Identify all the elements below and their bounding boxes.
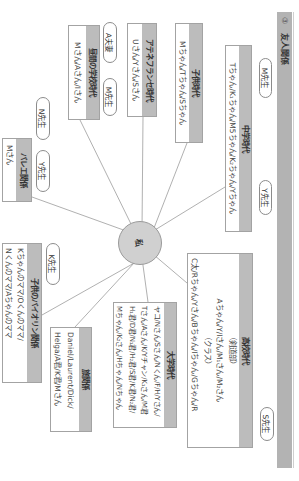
link-day-school — [80, 120, 131, 224]
group-title: 旅関係 — [79, 328, 91, 431]
member-line: Tちゃん/K₁ちゃん/M5ちゃん/K₂ちゃん/Yちゃん — [226, 50, 239, 227]
link-childhood — [154, 143, 187, 228]
link-athenee-francais — [142, 117, 143, 230]
group-members: Daniel/Laurent/Dick/ Helga/A君/K君/Mさん — [51, 328, 79, 431]
group-title: 高校時代 — [239, 254, 252, 447]
group-title: 子供のバイオリン関係 — [27, 244, 41, 382]
member-line: Uさん/Yさん/Sさん — [128, 28, 142, 112]
group-ballet: バレエ関係 Mさん — [2, 138, 32, 202]
group-title: 大学時代 — [164, 303, 176, 427]
link-high-school — [154, 255, 187, 283]
member-subheading: （クラス） — [201, 258, 214, 443]
member-line: Mさん — [2, 145, 16, 197]
pill-teacher-y-junior-high: Y先生 — [259, 180, 272, 215]
group-members: Mさん — [2, 139, 16, 201]
group-members: Mちゃん/Tちゃん/Sちゃん — [176, 24, 189, 142]
center-node-me: 私 — [118, 221, 162, 265]
pill-teacher-s-high-school: S先生 — [260, 407, 274, 441]
member-subheading: （剣道部） — [226, 258, 239, 443]
center-label: 私 — [135, 239, 146, 247]
member-line: Helga/A君/K君/Mさん — [51, 332, 64, 427]
group-title: 中学時代 — [239, 46, 251, 231]
group-members: ヤコ/Nさん/Sさん/Nくん/F/H/Yさん/ Tさん/Aさん/K/Yチャン/K… — [113, 303, 164, 427]
pill-teacher-k-violin: K先生 — [46, 243, 60, 285]
group-title: 子供時代 — [189, 24, 202, 142]
member-line: Mさん/Aさん/Iさん — [69, 30, 86, 115]
member-line: Daniel/Laurent/Dick/ — [64, 332, 77, 427]
member-line: ヤコ/Nさん/Sさん/Nくん/F/H/Yさん/ — [151, 306, 164, 425]
member-line: H₁君/D君/N₁君/H₂君/S君/K君/N₂君/ — [126, 306, 139, 425]
group-members: Kちゃんのママ/Oくんのママ/ Nくんのママ/Aちゃんのママ — [2, 244, 27, 382]
member-line: Kちゃんのママ/Oくんのママ/ — [14, 248, 26, 378]
member-line: Tさん/Aさん/K/Yチャン/K₁さん/M君 — [138, 306, 151, 425]
group-day-school: 昼間の学校時代 Mさん/Aさん/Iさん — [68, 25, 100, 120]
group-members: Tちゃん/K₁ちゃん/M5ちゃん/K₂ちゃん/Yちゃん — [226, 46, 239, 231]
group-title: アテネフランセ時代 — [142, 24, 156, 116]
group-athenee-francais: アテネフランセ時代 Uさん/Yさん/Sさん — [127, 23, 157, 117]
member-line: Mちゃん/Tちゃん/Sちゃん — [176, 28, 189, 138]
group-junior-high: 中学時代 Tちゃん/K₁ちゃん/M5ちゃん/K₂ちゃん/Yちゃん — [225, 45, 252, 232]
member-line: Mちゃん/K₂さん/Hちゃん/Nちゃん — [113, 306, 126, 425]
group-members: Mさん/Aさん/Iさん — [69, 26, 86, 119]
member-line: C太/Rちゃん/Yさん/Bちゃん/Iちゃん/Gちゃん/R — [188, 258, 201, 443]
group-childs-violin: 子供のバイオリン関係 Kちゃんのママ/Oくんのママ/ Nくんのママ/Aちゃんのマ… — [2, 243, 42, 383]
pill-teacher-y-ballet: Y先生 — [36, 150, 50, 192]
group-childhood: 子供時代 Mちゃん/Tちゃん/Sちゃん — [175, 23, 203, 143]
group-high-school: 高校時代 （剣道部） Aちゃん/Y/Iさん/M₁さん/M₂さん （クラス） C太… — [187, 253, 253, 448]
group-university: 大学時代 ヤコ/Nさん/Sさん/Nくん/F/H/Yさん/ Tさん/Aさん/K/Y… — [113, 302, 177, 428]
member-line: Nくんのママ/Aちゃんのママ — [2, 248, 14, 378]
group-title: 昼間の学校時代 — [86, 26, 99, 119]
pill-teacher-m-day-school: M先生 — [103, 78, 117, 116]
group-title: バレエ関係 — [16, 139, 31, 201]
pill-teacher-n-ballet: N先生 — [36, 97, 50, 140]
pill-couple-a: A夫妻 — [103, 22, 117, 63]
link-ballet — [32, 197, 129, 232]
member-line: Aちゃん/Y/Iさん/M₁さん/M₂さん — [213, 258, 226, 443]
friendship-diagram-page: ③ 友人関係 M先生 Y先生 S先生 A夫妻 M先生 N先生 Y先生 K先生 子… — [0, 0, 299, 481]
pill-teacher-m-junior-high: M先生 — [259, 58, 272, 98]
group-members: Uさん/Yさん/Sさん — [128, 24, 142, 116]
group-members: （剣道部） Aちゃん/Y/Iさん/M₁さん/M₂さん （クラス） C太/Rちゃん… — [188, 254, 239, 447]
group-travel: 旅関係 Daniel/Laurent/Dick/ Helga/A君/K君/Mさん — [50, 327, 92, 432]
